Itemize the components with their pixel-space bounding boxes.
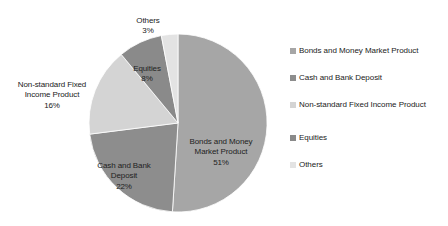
slice-label-cash-name: Cash and Bank Deposit	[97, 161, 150, 181]
legend-item-others[interactable]: Others	[290, 159, 446, 170]
legend-swatch-icon	[290, 48, 296, 54]
chart-legend: Bonds and Money Market Product Cash and …	[290, 42, 446, 192]
legend-item-label: Others	[299, 159, 323, 170]
slice-label-bonds-value: 51%	[174, 158, 268, 169]
pie-chart-plot-area: Others 3% Equities 8% Non-standard Fixed…	[0, 0, 286, 226]
legend-swatch-icon	[290, 162, 296, 168]
slice-label-others-value: 3%	[110, 26, 186, 37]
slice-label-non-standard-value: 16%	[2, 101, 102, 112]
slice-label-cash-and-bank-deposit: Cash and Bank Deposit 22%	[82, 150, 166, 203]
slice-label-bonds-name: Bonds and Money Market Product	[190, 137, 253, 157]
slice-label-equities-value: 8%	[117, 74, 177, 85]
legend-item-label: Equities	[299, 132, 327, 143]
legend-item-label: Non-standard Fixed Income Product	[299, 99, 426, 110]
legend-item-cash-and-bank-deposit[interactable]: Cash and Bank Deposit	[290, 72, 446, 83]
legend-item-bonds-and-money-market-product[interactable]: Bonds and Money Market Product	[290, 45, 446, 56]
legend-swatch-icon	[290, 75, 296, 81]
slice-label-non-standard-name: Non-standard Fixed Income Product	[18, 80, 86, 100]
pie-chart-figure: Others 3% Equities 8% Non-standard Fixed…	[0, 0, 448, 226]
slice-label-non-standard-fixed-income-product: Non-standard Fixed Income Product 16%	[2, 69, 102, 122]
pie-slice[interactable]	[172, 34, 267, 212]
legend-item-non-standard-fixed-income-product[interactable]: Non-standard Fixed Income Product	[290, 99, 446, 110]
legend-swatch-icon	[290, 135, 296, 141]
slice-label-others-name: Others	[136, 16, 159, 25]
slice-label-equities: Equities 8%	[117, 53, 177, 95]
legend-item-equities[interactable]: Equities	[290, 132, 446, 143]
slice-label-others: Others 3%	[110, 5, 186, 47]
legend-swatch-icon	[290, 102, 296, 108]
slice-label-bonds-and-money-market-product: Bonds and Money Market Product 51%	[174, 126, 268, 179]
slice-label-cash-value: 22%	[82, 182, 166, 193]
legend-item-label: Cash and Bank Deposit	[299, 72, 382, 83]
slice-label-equities-name: Equities	[133, 64, 161, 73]
legend-item-label: Bonds and Money Market Product	[299, 45, 418, 56]
